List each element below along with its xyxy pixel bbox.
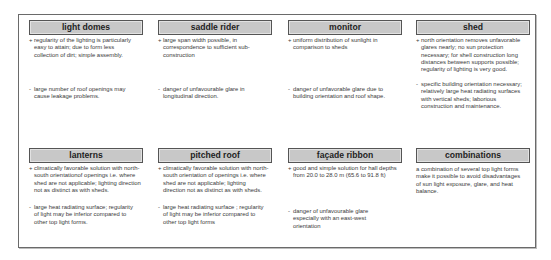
- disadvantage-text: - large number of roof openings may caus…: [29, 86, 147, 101]
- advantage-text: + climatically favorable solution with n…: [29, 165, 147, 194]
- disadvantage-body: danger of unfavourable glare in longitud…: [163, 86, 255, 101]
- disadvantage-text: - large heat radiating surface; regulari…: [29, 204, 147, 226]
- disadvantage-body: danger of unfavorable glare due to build…: [293, 86, 393, 101]
- cell-monitor: monitor + uniform distribution of sunlig…: [288, 20, 402, 35]
- advantage-body: climatically favorable solution with nor…: [34, 165, 144, 194]
- advantage-body: uniform distribution of sunlight in comp…: [293, 37, 397, 52]
- disadvantage-body: large heat radiating surface; regularity…: [34, 204, 138, 226]
- cell-shed: shed + north orientation removes unfavor…: [416, 20, 530, 35]
- disadvantage-body: danger of unfavourable glare especially …: [293, 208, 393, 230]
- cell-combinations: combinations a combination of several to…: [416, 148, 530, 163]
- cell-facade-ribbon: façade ribbon + good and simple solution…: [288, 148, 402, 163]
- advantage-text: + large span width possible, in correspo…: [158, 37, 276, 59]
- cell-saddle-rider: saddle rider + large span width possible…: [158, 20, 272, 35]
- advantage-body: good and simple solution for hall depths…: [293, 165, 403, 180]
- disadvantage-text: - danger of unfavourable glare especiall…: [288, 208, 406, 230]
- advantage-body: north orientation removes unfavorable gl…: [421, 37, 527, 73]
- advantage-text: + north orientation removes unfavorable …: [416, 37, 534, 73]
- advantage-text: + uniform distribution of sunlight in co…: [288, 37, 406, 52]
- disadvantage-body: specific building orientation necessary;…: [421, 81, 525, 110]
- disadvantage-text: - danger of unfavourable glare in longit…: [158, 86, 276, 101]
- cell-header: lanterns: [29, 148, 143, 163]
- advantage-body: large span width possible, in correspond…: [163, 37, 269, 59]
- cell-header: façade ribbon: [288, 148, 402, 163]
- advantage-text: + climatically favorable solution with n…: [158, 165, 276, 194]
- cell-light-domes: light domes + regularity of the lighting…: [29, 20, 143, 35]
- disadvantage-text: - large heat radiating surface ; regular…: [158, 204, 276, 226]
- advantage-body: regularity of the lighting is particular…: [34, 37, 134, 59]
- cell-header: monitor: [288, 20, 402, 35]
- advantage-body: climatically favorable solution with nor…: [163, 165, 269, 194]
- disadvantage-body: large heat radiating surface ; regularit…: [163, 204, 267, 226]
- advantage-text: + regularity of the lighting is particul…: [29, 37, 147, 59]
- disadvantage-body: large number of roof openings may cause …: [34, 86, 132, 101]
- disadvantage-text: - danger of unfavorable glare due to bui…: [288, 86, 406, 101]
- cell-header: light domes: [29, 20, 143, 35]
- cell-lanterns: lanterns + climatically favorable soluti…: [29, 148, 143, 163]
- advantage-text: + good and simple solution for hall dept…: [288, 165, 406, 180]
- disadvantage-text: - specific building orientation necessar…: [416, 81, 534, 110]
- cell-header: combinations: [416, 148, 530, 163]
- combinations-text: a combination of several top light forms…: [416, 166, 524, 195]
- cell-header: saddle rider: [158, 20, 272, 35]
- cell-pitched-roof: pitched roof + climatically favorable so…: [158, 148, 272, 163]
- cell-header: pitched roof: [158, 148, 272, 163]
- cell-header: shed: [416, 20, 530, 35]
